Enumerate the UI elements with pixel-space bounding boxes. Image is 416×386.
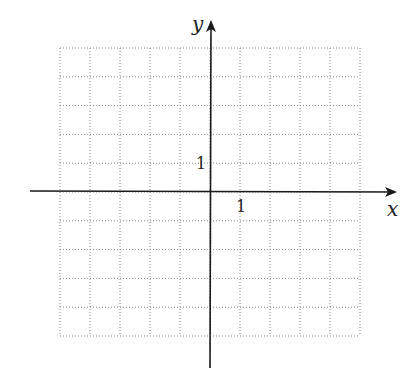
coordinate-plane: x y 1 1 [0,0,416,386]
y-axis-label: y [191,12,204,36]
x-axis [30,191,395,192]
x-axis-label: x [387,197,398,221]
y-axis [210,22,211,368]
x-tick-label-1: 1 [236,197,246,216]
y-tick-label-1: 1 [196,154,206,173]
